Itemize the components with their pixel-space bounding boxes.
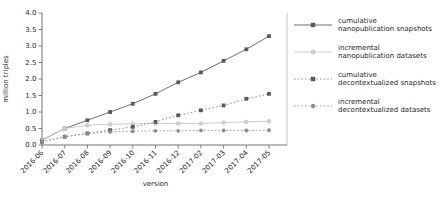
- series-marker: [176, 129, 180, 133]
- x-tick-label: 2017-05: [246, 149, 272, 175]
- legend-label-line: incremental: [338, 98, 431, 106]
- y-tick-label: 2.0: [25, 75, 36, 83]
- series-marker: [131, 125, 135, 129]
- series-marker: [267, 128, 271, 132]
- x-tick-label: 2017-04: [223, 148, 250, 175]
- series-marker: [176, 113, 180, 117]
- y-axis-title: million triples: [2, 55, 10, 103]
- series-marker: [108, 110, 112, 114]
- series-marker: [108, 122, 112, 126]
- legend-label-line: nanopublication datasets: [338, 52, 427, 60]
- legend-label: cumulativedecontextualized snapshots: [338, 71, 436, 87]
- series-marker: [267, 119, 271, 123]
- x-tick-label: 2017-03: [201, 149, 227, 175]
- y-tick-label: 3.5: [25, 26, 36, 34]
- legend-swatch-dotted-circle-icon: [293, 101, 333, 111]
- legend-label-line: decontextualized snapshots: [338, 79, 436, 87]
- x-axis-title: version: [143, 180, 169, 188]
- legend-label: cumulativenanopublication snapshots: [338, 17, 432, 33]
- series-marker: [199, 129, 203, 133]
- series-marker: [199, 108, 203, 112]
- series-marker: [244, 120, 248, 124]
- legend-swatch-dotted-square-icon: [293, 74, 333, 84]
- legend-swatch-solid-square-icon: [293, 20, 333, 30]
- legend-label: incrementalnanopublication datasets: [338, 44, 427, 60]
- series-marker: [86, 118, 90, 122]
- legend-label: incrementaldecontextualized datasets: [338, 98, 431, 114]
- series-marker: [86, 132, 90, 136]
- series-marker: [131, 102, 135, 106]
- series-marker: [244, 97, 248, 101]
- series-marker: [154, 129, 158, 133]
- x-tick-label: 2016-06: [19, 148, 46, 175]
- series-marker: [267, 34, 271, 38]
- line-chart-figure: 0.00.51.01.52.02.53.03.54.02016-062016-0…: [0, 0, 441, 201]
- series-marker: [176, 80, 180, 84]
- legend-item: incrementaldecontextualized datasets: [293, 95, 436, 116]
- legend-item: cumulativenanopublication snapshots: [293, 14, 436, 35]
- x-tick-label: 2016-07: [42, 149, 68, 175]
- series-marker: [199, 122, 203, 126]
- x-tick-label: 2016-12: [155, 149, 181, 175]
- legend-label-line: decontextualized datasets: [338, 106, 431, 114]
- series-marker: [244, 129, 248, 133]
- series-marker: [176, 122, 180, 126]
- legend-label-line: incremental: [338, 44, 427, 52]
- y-tick-label: 1.5: [25, 92, 36, 100]
- y-tick-label: 2.5: [25, 59, 36, 67]
- series-marker: [40, 140, 44, 144]
- series-marker: [131, 129, 135, 133]
- y-tick-label: 3.0: [25, 42, 36, 50]
- y-tick-label: 0.5: [25, 125, 36, 133]
- series-marker: [63, 135, 67, 139]
- x-tick-label: 2016-08: [64, 149, 90, 175]
- x-tick-label: 2016-11: [133, 149, 159, 175]
- series-marker: [154, 92, 158, 96]
- legend-item: cumulativedecontextualized snapshots: [293, 68, 436, 89]
- legend-label-line: cumulative: [338, 71, 436, 79]
- series-marker: [222, 129, 226, 133]
- x-tick-label: 2016-09: [87, 149, 113, 175]
- y-tick-label: 1.0: [25, 108, 36, 116]
- y-tick-label: 4.0: [25, 9, 36, 17]
- series-line: [42, 94, 269, 142]
- series-marker: [86, 123, 90, 127]
- series-marker: [199, 71, 203, 75]
- legend-label-line: cumulative: [338, 17, 432, 25]
- x-tick-label: 2017-02: [178, 149, 204, 175]
- series-marker: [244, 47, 248, 51]
- x-tick-label: 2016-10: [110, 149, 136, 175]
- series-marker: [267, 92, 271, 96]
- legend-swatch-solid-circle-icon: [293, 47, 333, 57]
- legend-item: incrementalnanopublication datasets: [293, 41, 436, 62]
- series-marker: [108, 130, 112, 134]
- legend-label-line: nanopublication snapshots: [338, 25, 432, 33]
- series-marker: [222, 104, 226, 108]
- series-marker: [63, 127, 67, 131]
- series-marker: [222, 121, 226, 125]
- series-marker: [222, 59, 226, 63]
- y-tick-label: 0.0: [25, 141, 36, 149]
- series-marker: [154, 120, 158, 124]
- chart-legend: cumulativenanopublication snapshotsincre…: [293, 14, 436, 122]
